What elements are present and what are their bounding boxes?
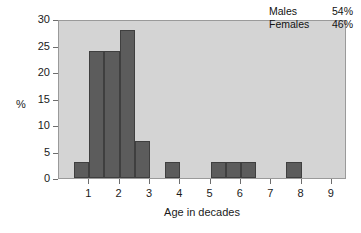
x-tick-mark <box>88 179 89 184</box>
x-tick-mark <box>240 179 241 184</box>
y-tick-label: 25 <box>38 40 50 53</box>
legend-row: Females46% <box>269 18 353 31</box>
x-tick-mark <box>119 179 120 184</box>
x-tick-mark <box>149 179 150 184</box>
bars-layer <box>59 21 345 178</box>
legend-label: Females <box>269 18 323 31</box>
x-tick-label: 9 <box>321 187 341 199</box>
y-tick-label: 20 <box>38 66 50 79</box>
x-axis-title: Age in decades <box>58 206 346 218</box>
bar <box>74 162 89 178</box>
bar <box>120 30 135 178</box>
x-tick-label: 6 <box>230 187 250 199</box>
y-tick-label: 15 <box>38 93 50 106</box>
legend-value: 54% <box>323 5 353 18</box>
y-tick-label: 30 <box>38 13 50 26</box>
y-tick-label: 10 <box>38 119 50 132</box>
y-axis-title: % <box>16 98 26 110</box>
x-tick-mark <box>270 179 271 184</box>
x-axis: Age in decades 123456789 <box>58 179 346 233</box>
x-tick-label: 2 <box>109 187 129 199</box>
x-tick-label: 4 <box>169 187 189 199</box>
x-tick-mark <box>210 179 211 184</box>
bar <box>241 162 256 178</box>
bar <box>104 51 119 178</box>
x-tick-label: 7 <box>260 187 280 199</box>
bar <box>211 162 226 178</box>
x-tick-label: 5 <box>200 187 220 199</box>
legend-label: Males <box>269 5 323 18</box>
bar <box>165 162 180 178</box>
y-axis: % 051015202530 <box>0 0 58 233</box>
x-tick-mark <box>179 179 180 184</box>
y-tick-label: 5 <box>44 146 50 159</box>
legend-value: 46% <box>323 18 353 31</box>
bar <box>286 162 301 178</box>
plot-area <box>58 20 346 179</box>
x-tick-mark <box>331 179 332 184</box>
x-tick-label: 8 <box>291 187 311 199</box>
x-tick-label: 3 <box>139 187 159 199</box>
y-tick-label: 0 <box>44 172 50 185</box>
histogram-chart: % 051015202530 Age in decades 123456789 … <box>0 0 361 233</box>
bar <box>135 141 150 178</box>
bar <box>226 162 241 178</box>
legend: Males54%Females46% <box>269 5 353 31</box>
legend-row: Males54% <box>269 5 353 18</box>
x-tick-mark <box>301 179 302 184</box>
bar <box>89 51 104 178</box>
x-tick-label: 1 <box>78 187 98 199</box>
